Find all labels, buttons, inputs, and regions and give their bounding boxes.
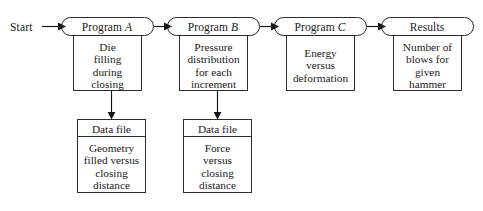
body-line: Force	[182, 142, 253, 154]
body-line: Geometry	[74, 142, 149, 154]
body-line: Energy	[284, 47, 357, 59]
program-c-body-label: Energy versus deformation	[284, 47, 357, 84]
body-line: closing	[73, 78, 142, 90]
program-c-header-letter: C	[338, 21, 346, 33]
body-line: closing	[182, 167, 253, 179]
connector-program-a-to-data-file-1	[108, 91, 116, 120]
body-line: Pressure	[178, 41, 249, 53]
connector-program-b-to-data-file-2	[214, 91, 222, 120]
body-line: versus	[284, 59, 357, 71]
program-b-header-word: Program	[188, 21, 228, 33]
body-line: during	[73, 66, 142, 78]
body-line: closing	[74, 167, 149, 179]
program-b-body-label: Pressure distribution for each increment	[178, 41, 249, 91]
program-c-header-word: Program	[294, 21, 334, 33]
body-line: filling	[73, 53, 142, 65]
flowchart: Start Program A Die filling during closi…	[0, 0, 483, 211]
body-line: given	[392, 66, 463, 78]
body-line: deformation	[284, 72, 357, 84]
program-c-header-label: Program C	[274, 21, 366, 35]
body-line: increment	[178, 78, 249, 90]
program-a-header-letter: A	[125, 21, 132, 33]
results-header-word: Results	[410, 21, 445, 33]
data-file-2-header-label: Data file	[183, 123, 252, 137]
data-file-1-header-label: Data file	[77, 123, 146, 137]
body-line: hammer	[392, 78, 463, 90]
results-header-label: Results	[381, 21, 473, 35]
body-line: for each	[178, 66, 249, 78]
body-line: filled versus	[74, 154, 149, 166]
body-line: Number of	[392, 41, 463, 53]
results-body-label: Number of blows for given hammer	[392, 41, 463, 91]
data-file-2-body-label: Force versus closing distance	[182, 142, 253, 192]
body-line: versus	[182, 154, 253, 166]
body-line: distribution	[178, 53, 249, 65]
body-line: blows for	[392, 53, 463, 65]
program-a-header-label: Program A	[61, 21, 153, 35]
body-line: Die	[73, 41, 142, 53]
program-a-body-label: Die filling during closing	[73, 41, 142, 91]
body-line: distance	[182, 179, 253, 191]
body-line: distance	[74, 179, 149, 191]
data-file-1-body-label: Geometry filled versus closing distance	[74, 142, 149, 192]
program-a-header-word: Program	[82, 21, 122, 33]
program-b-header-letter: B	[231, 21, 238, 33]
program-b-header-label: Program B	[167, 21, 259, 35]
start-label: Start	[10, 21, 50, 33]
